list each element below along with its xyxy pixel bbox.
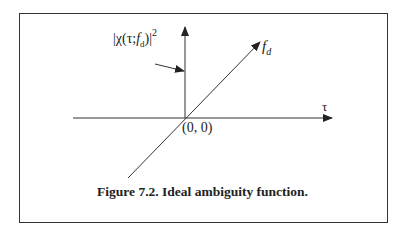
doppler-axis bbox=[128, 42, 260, 178]
tau-axis-label: τ bbox=[322, 99, 327, 115]
ambiguity-function-label: |χ(τ;fd)|2 bbox=[113, 31, 157, 49]
doppler-axis-label: fd bbox=[262, 38, 271, 57]
label-pointer-arrow bbox=[155, 64, 184, 71]
origin-label: (0, 0) bbox=[182, 120, 212, 136]
figure-caption: Figure 7.2. Ideal ambiguity function. bbox=[0, 184, 405, 200]
